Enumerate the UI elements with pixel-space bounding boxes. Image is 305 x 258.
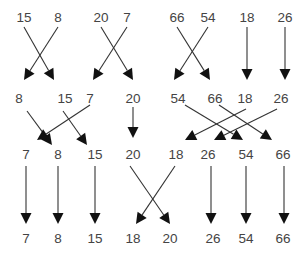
arrowhead-icon (123, 68, 133, 80)
row0-value: 7 (123, 10, 131, 25)
row3-value: 7 (22, 231, 30, 246)
row2-value: 15 (87, 147, 102, 162)
arrowhead-icon (44, 68, 54, 80)
arrow-line (24, 27, 49, 70)
row2-value: 20 (125, 147, 140, 162)
arrow-line (195, 109, 246, 135)
row1-value: 15 (57, 91, 72, 106)
row0-value: 26 (277, 10, 292, 25)
row0-value: 15 (16, 10, 31, 25)
arrowhead-icon (279, 213, 290, 224)
arrowhead-icon (90, 213, 101, 224)
row3-value: 66 (275, 231, 290, 246)
row3-value: 26 (205, 231, 220, 246)
arrowhead-icon (93, 68, 104, 80)
arrowhead-icon (206, 213, 217, 224)
row2-value: 8 (54, 147, 62, 162)
value-labels: 15 8 20 7 66 54 18 26 8 15 7 20 54 66 18… (15, 10, 292, 246)
arrowhead-icon (76, 133, 87, 145)
arrow-line (63, 111, 81, 136)
arrowhead-icon (37, 129, 49, 140)
row2-value: 7 (22, 147, 30, 162)
row1-value: 26 (273, 91, 288, 106)
arrowhead-icon (241, 213, 252, 224)
row0-value: 20 (93, 10, 108, 25)
row0-value: 66 (169, 10, 184, 25)
arrow-line (30, 27, 58, 71)
arrowhead-icon (174, 68, 185, 80)
row3-value: 54 (238, 231, 254, 246)
row1-value: 20 (125, 91, 140, 106)
row3-value: 8 (54, 231, 62, 246)
arrow-line (46, 105, 90, 134)
row1-value: 66 (207, 91, 222, 106)
arrowhead-icon (136, 212, 147, 224)
arrow-line (177, 27, 204, 71)
row0-value: 18 (239, 10, 254, 25)
row2-value: 26 (200, 147, 215, 162)
arrowhead-icon (159, 212, 170, 224)
row3-value: 20 (162, 231, 177, 246)
row1-value: 8 (15, 91, 23, 106)
row2-value: 66 (275, 147, 290, 162)
row3-value: 18 (125, 231, 140, 246)
row1-value: 18 (237, 91, 252, 106)
row2-value: 18 (168, 147, 183, 162)
arrow-edges (21, 27, 291, 224)
arrowhead-icon (242, 69, 253, 80)
arrowhead-icon (200, 68, 210, 80)
row1-value: 54 (170, 91, 186, 106)
arrowhead-icon (53, 213, 64, 224)
row3-value: 15 (87, 231, 102, 246)
arrowhead-icon (24, 68, 35, 80)
arrow-line (180, 27, 208, 71)
row2-value: 54 (238, 147, 254, 162)
row0-value: 54 (200, 10, 216, 25)
arrowhead-icon (260, 129, 272, 140)
row1-value: 7 (86, 91, 94, 106)
arrowhead-icon (21, 213, 32, 224)
arrowhead-icon (280, 69, 291, 80)
row0-value: 8 (54, 10, 62, 25)
arrowhead-icon (128, 127, 139, 138)
merge-network-diagram: 15 8 20 7 66 54 18 26 8 15 7 20 54 66 18… (0, 0, 305, 258)
arrow-line (99, 27, 127, 71)
